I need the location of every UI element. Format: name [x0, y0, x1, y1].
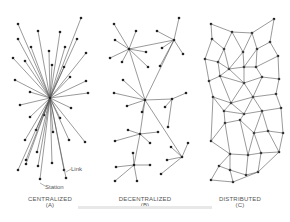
- decentralized-network: [109, 17, 190, 183]
- network-diagrams: [0, 0, 290, 222]
- link-annotation: Link: [71, 166, 82, 172]
- centralized-label: CENTRALIZED (A): [15, 196, 85, 208]
- station-annotation: Station: [45, 184, 64, 190]
- figure-caption-faint: [78, 206, 212, 209]
- centralized-sub: (A): [15, 202, 85, 208]
- distributed-sub: (C): [205, 202, 275, 208]
- centralized-network: [12, 17, 90, 181]
- distributed-network: [204, 18, 285, 184]
- distributed-label: DISTRIBUTED (C): [205, 196, 275, 208]
